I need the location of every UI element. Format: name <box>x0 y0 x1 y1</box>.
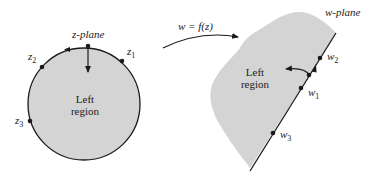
mapping-arrow-icon <box>163 35 238 48</box>
label-w2: w2 <box>327 50 338 65</box>
label-z2: z2 <box>27 50 36 65</box>
w-region-label-line1: Left <box>246 66 264 78</box>
z-region-label-line2: region <box>71 105 100 117</box>
mapping-label: w = f(z) <box>178 20 213 33</box>
point-z2 <box>40 65 45 70</box>
point-w2 <box>318 56 323 61</box>
point-z3 <box>28 119 33 124</box>
z-region-label-line1: Left <box>76 93 94 105</box>
z-plane-title: z-plane <box>71 28 105 40</box>
point-w1 <box>299 86 304 91</box>
point-w3 <box>271 131 276 136</box>
z-plane-group: z-plane z1 z2 z3 Left region <box>14 28 140 160</box>
w-region-label-line2: region <box>241 78 270 90</box>
mapping-group: w = f(z) <box>163 20 238 48</box>
label-w1: w1 <box>308 86 319 101</box>
point-z1 <box>120 59 125 64</box>
w-plane-group: w-plane w2 w1 w3 Left region <box>210 6 360 171</box>
label-w3: w3 <box>280 128 291 143</box>
w-plane-title: w-plane <box>325 6 361 18</box>
label-z1: z1 <box>126 45 135 60</box>
conformal-mapping-diagram: z-plane z1 z2 z3 Left region w = f(z) <box>0 0 376 187</box>
label-z3: z3 <box>14 114 23 129</box>
